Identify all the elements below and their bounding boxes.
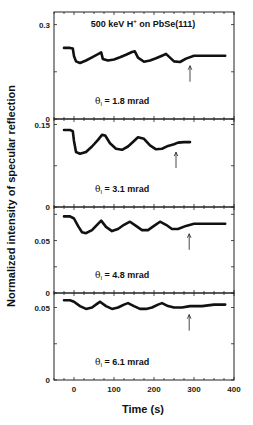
x-tick-label: 300 bbox=[187, 385, 201, 394]
data-curve bbox=[64, 48, 225, 63]
panel-annotation: θI = 4.8 mrad bbox=[95, 270, 149, 281]
y-axis-label: Normalized intensity of specular reflect… bbox=[5, 85, 17, 307]
data-curve bbox=[64, 216, 225, 233]
panel-annotation: θI = 6.1 mrad bbox=[95, 357, 149, 368]
x-tick-label: 400 bbox=[227, 385, 241, 394]
panel-4: 00.05θI = 6.1 mrad bbox=[34, 293, 234, 385]
y-tick-label: 0.05 bbox=[34, 237, 50, 246]
x-axis-label: Time (s) bbox=[122, 403, 164, 415]
figure: 00.3θI = 1.8 mrad00.15θI = 3.1 mrad00.05… bbox=[0, 0, 253, 425]
y-tick-label: 0 bbox=[46, 289, 51, 298]
x-tick-label: 200 bbox=[147, 385, 161, 394]
data-curve bbox=[64, 130, 190, 154]
panel-frame bbox=[54, 207, 234, 293]
y-tick-label: 0.3 bbox=[39, 21, 51, 30]
x-tick-label: 100 bbox=[107, 385, 121, 394]
y-tick-label: 0.05 bbox=[34, 304, 50, 313]
y-tick-label: 0 bbox=[46, 203, 51, 212]
y-tick-label: 0.15 bbox=[34, 121, 50, 130]
panels: 00.3θI = 1.8 mrad00.15θI = 3.1 mrad00.05… bbox=[34, 12, 234, 385]
x-axis: 0100200300400 bbox=[72, 385, 241, 394]
x-tick-label: 0 bbox=[72, 385, 77, 394]
y-tick-label: 0 bbox=[46, 376, 51, 385]
panel-annotation: θI = 3.1 mrad bbox=[95, 184, 149, 195]
panel-annotation: θI = 1.8 mrad bbox=[95, 96, 149, 107]
panel-3: 00.05θI = 4.8 mrad bbox=[34, 207, 234, 298]
panel-2: 00.15θI = 3.1 mrad bbox=[34, 119, 234, 212]
data-curve bbox=[64, 300, 225, 309]
chart-title: 500 keV H+ on PbSe(111) bbox=[91, 18, 196, 29]
